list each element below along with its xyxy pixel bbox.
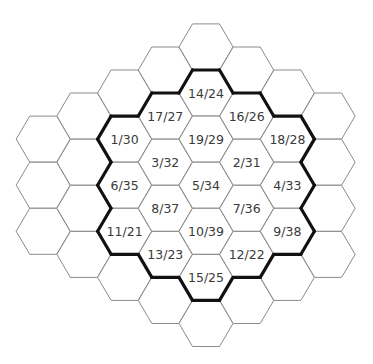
hex-label: 14/24 [188,86,224,101]
hex-label: 8/37 [151,201,179,216]
hex-label: 17/27 [147,109,183,124]
hex-label: 3/32 [151,155,179,170]
hex-label: 6/35 [111,178,139,193]
hex-label: 2/31 [233,155,261,170]
hex-label: 13/23 [147,247,183,262]
hex-label: 10/39 [188,224,224,239]
hex-label: 4/33 [273,178,301,193]
hex-label: 9/38 [273,224,301,239]
hex-label: 19/29 [188,132,224,147]
hex-label: 15/25 [188,270,224,285]
hex-grid-diagram: 1/306/3511/2117/273/328/3713/2314/2419/2… [0,0,373,364]
hex-label: 11/21 [107,224,143,239]
hex-label: 1/30 [111,132,139,147]
hex-label: 5/34 [192,178,220,193]
hex-cells-layer [16,24,355,347]
hex-label: 7/36 [233,201,261,216]
hex-label: 12/22 [229,247,265,262]
hex-label: 18/28 [269,132,305,147]
hex-label: 16/26 [229,109,265,124]
